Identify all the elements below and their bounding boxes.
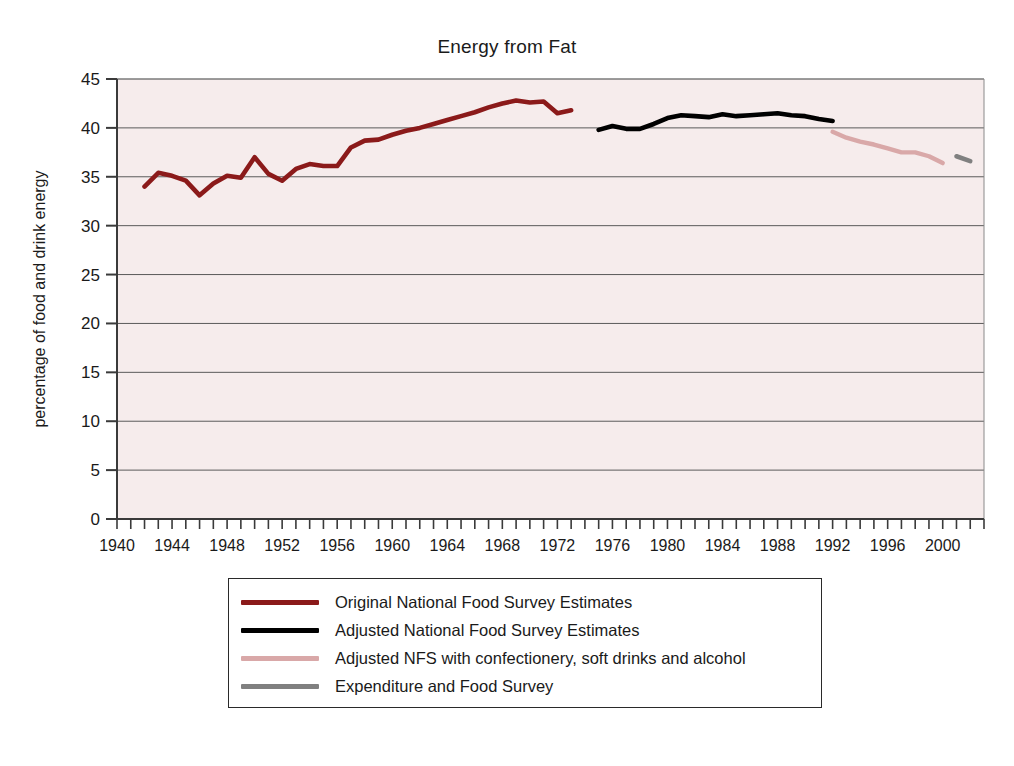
legend-item[interactable]: Adjusted National Food Survey Estimates — [229, 616, 821, 644]
x-axis-tick-label: 1944 — [154, 537, 190, 554]
x-axis-tick-label: 1952 — [264, 537, 300, 554]
y-axis-tick-label: 45 — [81, 70, 100, 89]
legend-item[interactable]: Original National Food Survey Estimates — [229, 588, 821, 616]
x-axis-tick-label: 1972 — [540, 537, 576, 554]
legend-label-adjusted-nfs-extras: Adjusted NFS with confectionery, soft dr… — [335, 649, 746, 668]
legend-swatch-original-nfs — [241, 600, 319, 605]
x-axis-tick-label: 1960 — [374, 537, 410, 554]
legend-label-adjusted-nfs: Adjusted National Food Survey Estimates — [335, 621, 640, 640]
y-axis-tick-label: 15 — [81, 363, 100, 382]
legend-label-original-nfs: Original National Food Survey Estimates — [335, 593, 632, 612]
x-axis-tick-label: 1940 — [99, 537, 135, 554]
x-axis-tick-label: 1984 — [705, 537, 741, 554]
x-axis-tick-label: 1976 — [595, 537, 631, 554]
y-axis-tick-label: 5 — [91, 461, 100, 480]
y-axis-tick-label: 20 — [81, 314, 100, 333]
plot-background — [117, 79, 984, 519]
chart-legend: Original National Food Survey Estimates … — [228, 578, 822, 708]
x-axis-tick-label: 1992 — [815, 537, 851, 554]
y-axis-tick-label: 0 — [91, 510, 100, 529]
x-axis-tick-label: 1964 — [429, 537, 465, 554]
legend-swatch-efs — [241, 684, 319, 689]
legend-swatch-adjusted-nfs-extras — [241, 656, 319, 661]
x-axis-tick-label: 1988 — [760, 537, 796, 554]
x-axis-tick-label: 1948 — [209, 537, 245, 554]
x-axis-tick-label: 1968 — [485, 537, 521, 554]
legend-item[interactable]: Adjusted NFS with confectionery, soft dr… — [229, 644, 821, 672]
x-axis-tick-label: 1980 — [650, 537, 686, 554]
y-axis-tick-label: 35 — [81, 168, 100, 187]
chart-container: Energy from Fat percentage of food and d… — [0, 0, 1014, 766]
legend-item[interactable]: Expenditure and Food Survey — [229, 672, 821, 700]
x-axis-tick-label: 1996 — [870, 537, 906, 554]
y-axis-tick-label: 40 — [81, 119, 100, 138]
y-axis-tick-label: 30 — [81, 217, 100, 236]
x-axis-tick-label: 2000 — [925, 537, 961, 554]
x-axis-tick-label: 1956 — [319, 537, 355, 554]
legend-label-efs: Expenditure and Food Survey — [335, 677, 553, 696]
y-axis-tick-label: 25 — [81, 266, 100, 285]
legend-swatch-adjusted-nfs — [241, 628, 319, 633]
y-axis-tick-label: 10 — [81, 412, 100, 431]
